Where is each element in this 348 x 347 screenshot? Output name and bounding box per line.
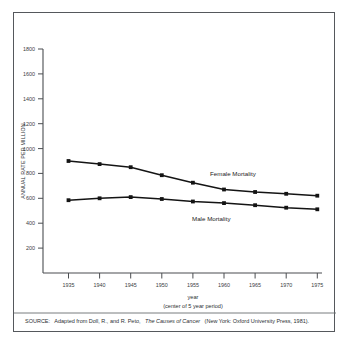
female-point-1960: [222, 188, 226, 192]
male-point-1960: [222, 201, 226, 205]
source-citation: SOURCE: Adapted from Doll, R., and R. Pe…: [25, 318, 310, 324]
male-point-1945: [129, 195, 133, 199]
y-tick-label-600: 600: [26, 195, 35, 201]
figure-frame: 1800 1600 1400 1200 1000 800 600 400 200…: [13, 12, 335, 332]
x-tick-label-1960: 1960: [218, 282, 230, 288]
source-prefix: SOURCE:: [25, 318, 51, 324]
series-female-mortality: [67, 159, 320, 198]
male-mortality-label: Male Mortality: [192, 215, 231, 222]
y-axis-title: ANNUAL RATE PER MILLION: [20, 123, 26, 199]
y-tick-label-400: 400: [26, 220, 35, 226]
female-point-1970: [284, 192, 288, 196]
female-mortality-label: Female Mortality: [210, 170, 257, 177]
x-tick-label-1955: 1955: [187, 282, 199, 288]
x-axis-subtitle: (center of 5 year period): [163, 303, 223, 309]
x-tick-label-1945: 1945: [125, 282, 137, 288]
female-point-1975: [315, 194, 319, 198]
female-point-1935: [67, 159, 71, 163]
source-book-title: The Causes of Cancer: [145, 318, 201, 324]
x-tick-label-1950: 1950: [156, 282, 168, 288]
male-point-1970: [284, 206, 288, 210]
female-mortality-line: [69, 161, 318, 196]
x-tick-label-1940: 1940: [94, 282, 106, 288]
x-tick-label-1965: 1965: [249, 282, 261, 288]
chart-plot-area: 1800 1600 1400 1200 1000 800 600 400 200…: [14, 13, 336, 333]
y-axis-ticks: [38, 49, 43, 248]
female-point-1940: [98, 162, 102, 166]
male-point-1975: [315, 207, 319, 211]
y-tick-label-1800: 1800: [23, 46, 35, 52]
female-point-1955: [191, 181, 195, 185]
male-point-1965: [253, 203, 257, 207]
x-tick-label-1935: 1935: [63, 282, 75, 288]
y-tick-label-800: 800: [26, 170, 35, 176]
y-tick-label-200: 200: [26, 245, 35, 251]
x-tick-label-1975: 1975: [311, 282, 323, 288]
y-tick-label-1400: 1400: [23, 96, 35, 102]
male-point-1950: [160, 197, 164, 201]
x-tick-label-1970: 1970: [280, 282, 292, 288]
source-text-after: (New York: Oxford University Press, 1981…: [205, 318, 310, 324]
x-axis-ticks: [69, 273, 318, 279]
series-male-mortality: [67, 195, 320, 211]
female-point-1965: [253, 190, 257, 194]
female-point-1950: [160, 173, 164, 177]
mortality-line-chart: 1800 1600 1400 1200 1000 800 600 400 200…: [14, 13, 336, 333]
male-point-1955: [191, 200, 195, 204]
female-point-1945: [129, 165, 133, 169]
y-tick-label-1600: 1600: [23, 71, 35, 77]
male-point-1935: [67, 198, 71, 202]
male-point-1940: [98, 196, 102, 200]
source-text-before: Adapted from Doll, R., and R. Peto,: [54, 318, 141, 324]
x-axis-title: year: [188, 294, 199, 300]
